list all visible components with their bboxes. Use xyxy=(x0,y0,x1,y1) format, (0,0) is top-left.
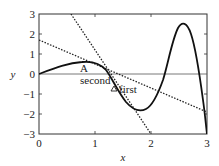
annotation-a: A xyxy=(80,62,88,74)
x-tick-1: 1 xyxy=(92,137,98,149)
annotation-second: second xyxy=(80,74,111,86)
y-tick-0: 0 xyxy=(30,68,36,80)
tangent-line-shallow xyxy=(39,40,207,112)
curve-line xyxy=(39,24,207,134)
x-tick-2: 2 xyxy=(148,137,154,149)
annotation-first: first xyxy=(119,83,137,95)
chart: 0 1 2 3 3 2 1 0 −1 −2 −3 x y A second fi… xyxy=(0,0,219,166)
y-tick-3: 3 xyxy=(30,8,36,20)
y-tick-1: 1 xyxy=(30,48,36,60)
y-tick-neg3: −3 xyxy=(23,128,35,140)
y-tick-2: 2 xyxy=(30,28,36,40)
x-axis-label: x xyxy=(120,151,126,163)
y-axis-label: y xyxy=(10,68,16,80)
x-tick-0: 0 xyxy=(36,137,42,149)
y-tick-neg2: −2 xyxy=(23,108,35,120)
x-tick-3: 3 xyxy=(204,137,210,149)
y-tick-neg1: −1 xyxy=(23,88,35,100)
